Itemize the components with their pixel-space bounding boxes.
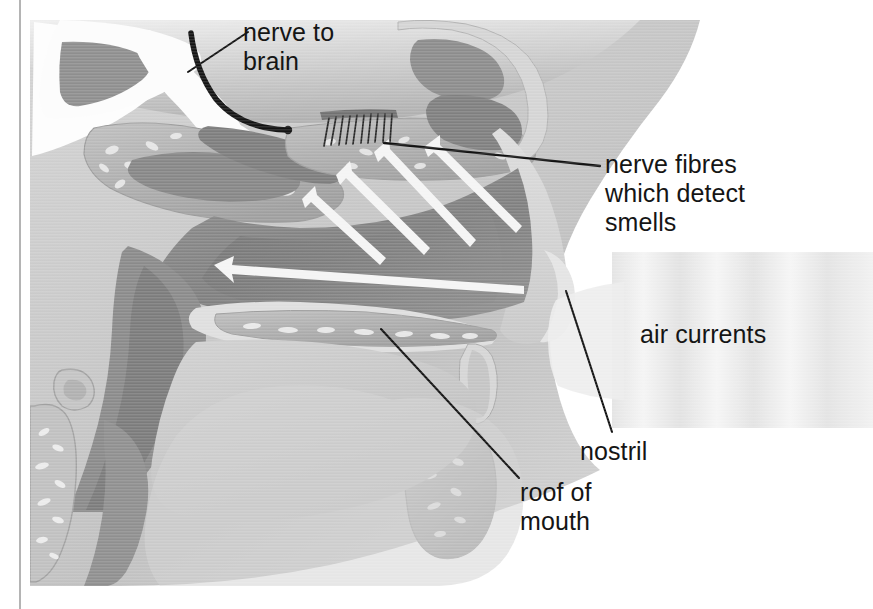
label-nerve-to-brain: nerve to brain [243, 18, 334, 76]
nose-cross-section-illustration [0, 0, 873, 609]
figure-canvas: nerve to brain nerve fibres which detect… [0, 0, 873, 609]
label-air-currents: air currents [640, 320, 766, 349]
label-roof-of-mouth: roof of mouth [520, 478, 592, 536]
label-nerve-fibres-which-detect-smells: nerve fibres which detect smells [605, 150, 745, 237]
scanline-texture [30, 20, 873, 586]
label-nostril: nostril [580, 437, 647, 466]
